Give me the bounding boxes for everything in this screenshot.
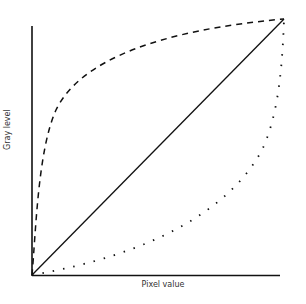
x-axis-label: Pixel value bbox=[10, 280, 306, 289]
y-axis-label: Gray level bbox=[3, 109, 12, 150]
linear-curve bbox=[32, 19, 284, 275]
transfer-curves-chart bbox=[0, 0, 306, 304]
